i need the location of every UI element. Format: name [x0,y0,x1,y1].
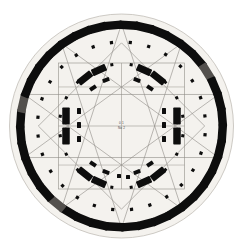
bluestone [162,108,166,114]
y-z-hole [59,134,62,137]
aubrey-hole [111,208,115,212]
trilithon-stone [173,108,181,125]
y-z-hole [110,186,113,189]
center-label-line-2: No 2 [118,126,125,130]
y-z-hole [181,115,184,118]
aubrey-hole [36,134,40,138]
bluestone [77,136,81,142]
aubrey-hole [130,208,134,212]
y-z-hole [59,115,62,118]
sarsen-stone [103,20,123,30]
y-z-hole [181,134,184,137]
center-label-line-1: 0 1 [119,121,124,125]
trilithon-stone [62,108,70,125]
y-z-hole [110,63,113,66]
bluestone [77,122,81,128]
y-z-hole [129,186,132,189]
aubrey-hole [203,133,207,137]
trilithon-stone [62,128,70,145]
bluestone [117,174,121,178]
aubrey-hole [129,41,133,45]
bluestone [162,122,166,128]
bluestone [162,136,166,142]
plan-svg: 0 1 No 2 [0,0,243,252]
stone-circle-plan: 0 1 No 2 [0,0,243,252]
bluestone [126,175,130,179]
trilithon-stone [173,128,181,145]
aubrey-hole [110,41,114,45]
y-z-hole [129,63,132,66]
bluestone [77,108,81,114]
aubrey-hole [203,114,207,118]
aubrey-hole [36,115,40,119]
